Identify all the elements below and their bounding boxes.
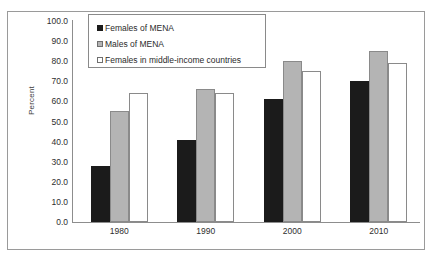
bar (196, 89, 215, 222)
y-axis-tick-label: 70.0 (34, 76, 68, 86)
legend-item-label: Males of MENA (105, 39, 164, 49)
bar-group-bars (350, 21, 407, 222)
y-axis-tick-label: 0.0 (34, 217, 68, 227)
y-axis-tick-labels: 100.090.080.070.060.050.040.030.020.010.… (30, 0, 68, 261)
bar (129, 93, 148, 222)
legend-swatch-icon (97, 57, 103, 63)
legend-item: Males of MENA (97, 36, 261, 51)
x-axis-tick-label: 1990 (171, 226, 241, 236)
legend-item-label: Females of MENA (105, 23, 174, 33)
bar (177, 140, 196, 222)
bar-group (264, 21, 321, 222)
bar (264, 99, 283, 222)
bar (283, 61, 302, 222)
x-axis-tick-label: 1980 (84, 226, 154, 236)
x-axis-tick-label: 2010 (344, 226, 414, 236)
legend-item: Females of MENA (97, 20, 261, 35)
bar (215, 93, 234, 222)
y-axis-tick-label: 10.0 (34, 197, 68, 207)
bar (369, 51, 388, 222)
y-axis-tick-label: 80.0 (34, 56, 68, 66)
legend-item-label: Females in middle-income countries (105, 55, 241, 65)
x-axis-line (72, 222, 420, 223)
legend-swatch-icon (97, 41, 103, 47)
bar-group (350, 21, 407, 222)
y-axis-tick-label: 30.0 (34, 157, 68, 167)
y-axis-tick-label: 50.0 (34, 117, 68, 127)
chart-figure: Percent 100.090.080.070.060.050.040.030.… (0, 0, 437, 261)
bar-group-bars (264, 21, 321, 222)
y-axis-tick-label: 40.0 (34, 137, 68, 147)
chart-legend: Females of MENAMales of MENAFemales in m… (88, 14, 266, 68)
y-axis-tick-label: 60.0 (34, 96, 68, 106)
bar (388, 63, 407, 222)
legend-swatch-icon (97, 25, 103, 31)
y-axis-tick-label: 100.0 (34, 16, 68, 26)
legend-item: Females in middle-income countries (97, 52, 261, 67)
y-axis-tick-label: 90.0 (34, 36, 68, 46)
bar (302, 71, 321, 222)
x-axis-tick-label: 2000 (257, 226, 327, 236)
bar (91, 166, 110, 222)
bar (110, 111, 129, 222)
y-axis-tick-label: 20.0 (34, 177, 68, 187)
bar (350, 81, 369, 222)
